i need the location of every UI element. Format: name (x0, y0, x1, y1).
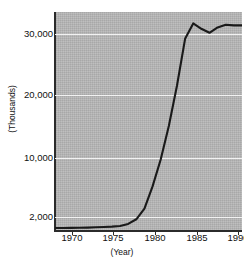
y-axis-tick-labels: 30,000 20,000 10,000 2,000 (0, 0, 53, 262)
y-tick-label: 20,000 (3, 90, 53, 100)
y-tick-label: 30,000 (3, 29, 53, 39)
plot-area (55, 12, 242, 230)
x-axis-title: (Year) (0, 247, 244, 257)
y-tick-label: 10,000 (3, 153, 53, 163)
chart-figure: (Thousands) 30,000 20,000 10,000 2,000 1… (0, 0, 244, 262)
data-line-series (55, 12, 242, 230)
x-tick-label: 1990 (218, 232, 244, 243)
x-tick-label: 1980 (135, 232, 175, 243)
x-tick-label: 1970 (52, 232, 92, 243)
x-tick-label: 1985 (177, 232, 217, 243)
x-tick-label: 1975 (93, 232, 133, 243)
y-tick-label: 2,000 (3, 212, 53, 222)
